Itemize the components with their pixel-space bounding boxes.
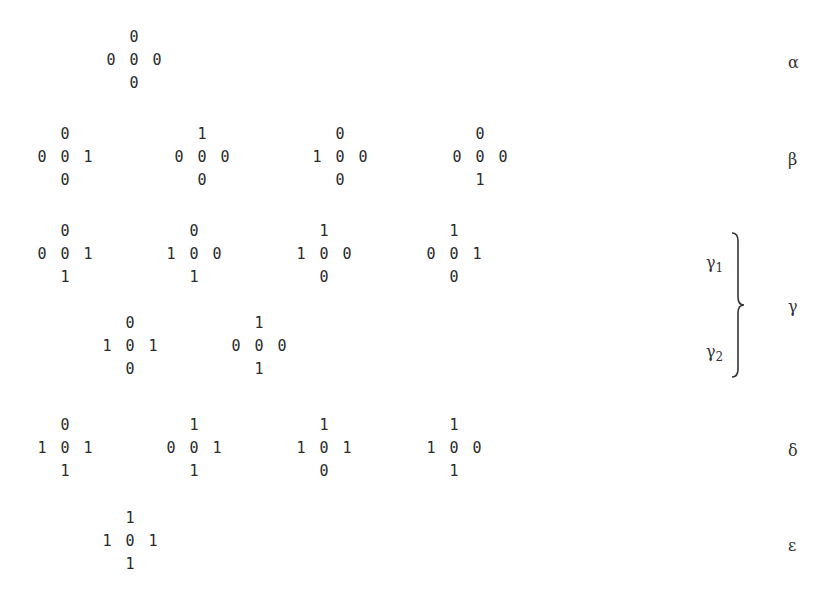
cell-center: 0 <box>127 50 141 70</box>
pattern-alpha-1: 0 0 0 0 0 <box>104 27 173 96</box>
cell-right: 0 <box>470 438 484 458</box>
cell-bottom: 0 <box>333 170 347 190</box>
cell-left: 1 <box>35 438 49 458</box>
cell-right: 1 <box>340 438 354 458</box>
cell-right: 0 <box>356 147 370 167</box>
cell-center: 0 <box>187 244 201 264</box>
pattern-gamma1-2: 0 1 0 0 1 <box>164 221 233 290</box>
cell-bottom: 0 <box>195 170 209 190</box>
row-label-epsilon: ε <box>788 536 796 555</box>
right-brace-icon <box>728 231 752 379</box>
cell-right: 1 <box>210 438 224 458</box>
cell-top: 1 <box>447 415 461 435</box>
cell-left: 0 <box>229 336 243 356</box>
cell-center: 0 <box>447 244 461 264</box>
row-label-gamma: γ <box>788 297 798 316</box>
cell-bottom: 0 <box>447 267 461 287</box>
pattern-beta-3: 0 1 0 0 0 <box>310 124 379 193</box>
pattern-epsilon-1: 1 1 0 1 1 <box>100 508 169 577</box>
sublabel-gamma1-index: 1 <box>716 261 724 275</box>
cell-bottom: 0 <box>123 359 137 379</box>
cell-bottom: 0 <box>127 73 141 93</box>
cell-left: 0 <box>450 147 464 167</box>
sublabel-gamma2-symbol: γ <box>706 342 716 361</box>
cell-top: 0 <box>473 124 487 144</box>
cell-right: 0 <box>340 244 354 264</box>
cell-right: 1 <box>81 147 95 167</box>
row-label-delta: δ <box>788 441 798 460</box>
cell-top: 1 <box>195 124 209 144</box>
cell-top: 0 <box>123 313 137 333</box>
cell-center: 0 <box>317 438 331 458</box>
row-label-beta: β <box>788 150 797 169</box>
sublabel-gamma1-symbol: γ <box>706 253 716 272</box>
cell-right: 0 <box>496 147 510 167</box>
cell-left: 0 <box>35 147 49 167</box>
cell-bottom: 1 <box>58 461 72 481</box>
pattern-delta-2: 1 0 0 1 1 <box>164 415 233 484</box>
cell-left: 0 <box>164 438 178 458</box>
cell-right: 1 <box>470 244 484 264</box>
pattern-beta-4: 0 0 0 0 1 <box>450 124 519 193</box>
pattern-delta-1: 0 1 0 1 1 <box>35 415 104 484</box>
cell-bottom: 1 <box>252 359 266 379</box>
sublabel-gamma2-index: 2 <box>716 350 724 364</box>
pattern-delta-3: 1 1 0 1 0 <box>294 415 363 484</box>
row-label-alpha: α <box>788 53 799 72</box>
cell-left: 0 <box>104 50 118 70</box>
cell-top: 0 <box>58 221 72 241</box>
cell-bottom: 1 <box>187 267 201 287</box>
cell-right: 1 <box>81 244 95 264</box>
cell-bottom: 1 <box>123 554 137 574</box>
cell-center: 0 <box>123 531 137 551</box>
pattern-gamma2-2: 1 0 0 0 1 <box>229 313 298 382</box>
cell-left: 1 <box>310 147 324 167</box>
cell-left: 0 <box>424 244 438 264</box>
pattern-beta-1: 0 0 0 1 0 <box>35 124 104 193</box>
cell-center: 0 <box>195 147 209 167</box>
cell-center: 0 <box>123 336 137 356</box>
pattern-delta-4: 1 1 0 0 1 <box>424 415 493 484</box>
sublabel-gamma1: γ1 <box>706 253 723 275</box>
pattern-gamma1-1: 0 0 0 1 1 <box>35 221 104 290</box>
cell-center: 0 <box>333 147 347 167</box>
sublabel-gamma2: γ2 <box>706 342 723 364</box>
cell-left: 0 <box>35 244 49 264</box>
pattern-beta-2: 1 0 0 0 0 <box>172 124 241 193</box>
cell-left: 1 <box>294 438 308 458</box>
cell-top: 1 <box>187 415 201 435</box>
cell-right: 0 <box>210 244 224 264</box>
cell-right: 0 <box>218 147 232 167</box>
cell-left: 1 <box>100 531 114 551</box>
cell-center: 0 <box>317 244 331 264</box>
cell-top: 0 <box>127 27 141 47</box>
cell-center: 0 <box>58 147 72 167</box>
cell-top: 1 <box>252 313 266 333</box>
cell-bottom: 1 <box>473 170 487 190</box>
cell-left: 1 <box>100 336 114 356</box>
pattern-gamma1-3: 1 1 0 0 0 <box>294 221 363 290</box>
cell-top: 0 <box>58 415 72 435</box>
cell-bottom: 1 <box>447 461 461 481</box>
cell-center: 0 <box>252 336 266 356</box>
cell-left: 1 <box>294 244 308 264</box>
cell-right: 0 <box>275 336 289 356</box>
cell-left: 0 <box>172 147 186 167</box>
cell-right: 1 <box>146 531 160 551</box>
cell-top: 1 <box>317 221 331 241</box>
cell-left: 1 <box>164 244 178 264</box>
cell-top: 0 <box>187 221 201 241</box>
cell-center: 0 <box>187 438 201 458</box>
cell-center: 0 <box>58 244 72 264</box>
cell-top: 1 <box>447 221 461 241</box>
cell-center: 0 <box>473 147 487 167</box>
cell-top: 0 <box>333 124 347 144</box>
cell-center: 0 <box>58 438 72 458</box>
cell-right: 1 <box>146 336 160 356</box>
cell-right: 1 <box>81 438 95 458</box>
cell-bottom: 0 <box>317 267 331 287</box>
cell-bottom: 0 <box>58 170 72 190</box>
cell-bottom: 1 <box>58 267 72 287</box>
cell-top: 1 <box>123 508 137 528</box>
pattern-gamma1-4: 1 0 0 1 0 <box>424 221 493 290</box>
